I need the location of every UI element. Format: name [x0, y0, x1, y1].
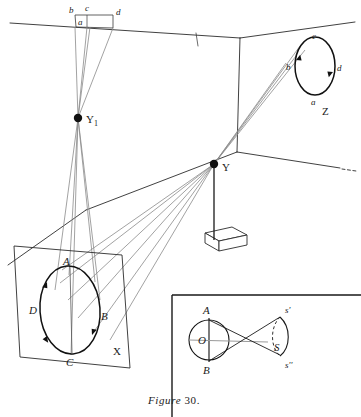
- label-wall-b: b: [286, 62, 291, 72]
- screen-x-ellipse-arrowheads: [42, 282, 98, 343]
- label-screen-b: B: [101, 310, 108, 322]
- projector-table: [205, 227, 247, 251]
- ray-y-wall-a: [214, 56, 296, 164]
- label-wall-c: c: [312, 31, 316, 41]
- label-screen-d: D: [28, 304, 37, 316]
- ray-y1-b: [75, 27, 78, 118]
- label-wall-a: a: [311, 97, 316, 107]
- ray-y1-screen-far: [78, 118, 100, 300]
- label-wall-d: d: [337, 63, 342, 73]
- arrow-wall-right-down: [327, 71, 333, 77]
- ray-y1-a: [78, 27, 87, 118]
- point-y1-marker: [74, 114, 82, 122]
- ray-y1-c: [78, 27, 90, 118]
- figure-caption: Figure 30.: [148, 394, 200, 406]
- label-slide-a: a: [78, 17, 83, 27]
- label-screen-c: C: [66, 356, 74, 368]
- label-z: Z: [322, 105, 329, 117]
- ray-y-screen-5: [95, 164, 214, 330]
- label-slide-b: b: [69, 5, 74, 15]
- label-inset-b: B: [203, 364, 210, 376]
- label-inset-o: O: [198, 334, 206, 346]
- caption-word: Figure: [148, 394, 181, 406]
- ray-y-wall-d: [214, 50, 305, 164]
- label-screen-a: A: [62, 255, 70, 267]
- inset-border: [172, 295, 361, 417]
- ray-y1-d: [78, 28, 113, 118]
- inset-image-arc: [280, 317, 288, 356]
- label-inset-s: S: [274, 341, 280, 353]
- label-y: Y: [222, 161, 230, 173]
- ray-y1-screen-c: [71, 118, 78, 355]
- label-inset-a: A: [202, 304, 210, 316]
- floor-line-right-dash: [342, 169, 356, 171]
- ray-cone-y1-to-ceiling: [75, 27, 113, 118]
- room-structure: [8, 22, 356, 265]
- figure-svg-canvas: b c a d Y1 Y Z c b d a X A D B C: [0, 0, 361, 417]
- ray-y-screen-2: [60, 164, 214, 283]
- wall-z-ellipse: [295, 37, 335, 95]
- label-x: X: [113, 345, 121, 357]
- inset-ray-a-to-s: [209, 320, 280, 355]
- ray-cone-y1-to-screen: [55, 118, 100, 355]
- caption-number: 30.: [185, 394, 201, 406]
- inset-panel: A O B S s' s'': [172, 295, 361, 417]
- ray-cone-y-to-wall-z: [214, 46, 305, 164]
- ceiling-right-edge: [240, 22, 355, 38]
- point-y-marker: [210, 160, 218, 168]
- label-slide-c: c: [85, 3, 89, 13]
- label-inset-s-double-prime: s'': [285, 360, 293, 370]
- ray-y-screen-6: [110, 164, 214, 340]
- label-y1: Y1: [86, 113, 98, 128]
- screen-x-ellipse-axis: [70, 267, 72, 354]
- label-inset-s-prime: s': [285, 305, 292, 315]
- label-slide-d: d: [116, 7, 121, 17]
- figure-30-illustration: b c a d Y1 Y Z c b d a X A D B C: [0, 0, 361, 417]
- floor-line-right: [237, 152, 340, 168]
